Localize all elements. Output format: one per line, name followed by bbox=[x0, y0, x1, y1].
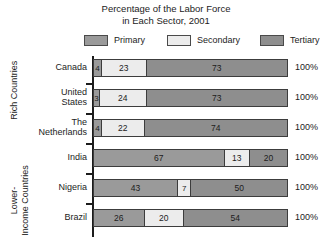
bar-segment-value: 4 bbox=[95, 124, 99, 133]
chart-row: India671320100% bbox=[0, 148, 332, 168]
chart-legend: Primary Secondary Tertiary bbox=[84, 34, 328, 47]
chart-row: TheNetherlands42274100% bbox=[0, 118, 332, 138]
stacked-bar: 671320 bbox=[93, 149, 288, 167]
bar-segment-value: 13 bbox=[232, 154, 241, 163]
bar-segment-value: 74 bbox=[211, 124, 220, 133]
group-label-rich-countries: Rich Countries bbox=[9, 52, 20, 128]
legend-item-secondary: Secondary bbox=[167, 35, 240, 46]
bar-segment-value: 4 bbox=[95, 64, 99, 73]
legend-swatch-tertiary bbox=[260, 35, 284, 46]
bar-segment-value: 7 bbox=[182, 184, 186, 193]
legend-label-secondary: Secondary bbox=[197, 35, 240, 46]
bar-segment-value: 24 bbox=[118, 94, 127, 103]
chart-row: Canada42373100% bbox=[0, 58, 332, 78]
row-total: 100% bbox=[295, 182, 318, 192]
row-total: 100% bbox=[295, 122, 318, 132]
legend-swatch-primary bbox=[84, 35, 108, 46]
bar-segment-secondary: 7 bbox=[177, 179, 191, 197]
legend-swatch-secondary bbox=[167, 35, 191, 46]
row-total: 100% bbox=[295, 92, 318, 102]
group-label-rich-line-1: Rich Countries bbox=[9, 52, 20, 128]
bar-segment-value: 20 bbox=[264, 154, 273, 163]
bar-segment-tertiary: 50 bbox=[190, 179, 288, 197]
bar-segment-tertiary: 73 bbox=[146, 89, 288, 107]
bar-segment-primary: 67 bbox=[93, 149, 224, 167]
bar-segment-primary: 4 bbox=[93, 119, 101, 137]
bar-segment-tertiary: 74 bbox=[144, 119, 288, 137]
axis-tick bbox=[86, 203, 92, 205]
bar-segment-tertiary: 54 bbox=[183, 209, 288, 227]
bar-segment-primary: 4 bbox=[93, 59, 101, 77]
legend-label-primary: Primary bbox=[114, 35, 145, 46]
bar-segment-value: 23 bbox=[119, 64, 128, 73]
stacked-bar: 262054 bbox=[93, 209, 288, 227]
bar-segment-primary: 26 bbox=[93, 209, 144, 227]
chart-row: Brazil262054100% bbox=[0, 208, 332, 228]
bar-segment-value: 26 bbox=[114, 214, 123, 223]
group-label-lower-line-1: Lower- bbox=[9, 160, 20, 242]
bar-segment-secondary: 24 bbox=[99, 89, 146, 107]
group-label-lower-line-2: Income Countries bbox=[19, 160, 30, 242]
bar-segment-primary: 43 bbox=[93, 179, 177, 197]
chart-root: Percentage of the Labor Force in Each Se… bbox=[0, 0, 332, 245]
axis-tick bbox=[86, 143, 92, 145]
axis-tick bbox=[86, 113, 92, 115]
stacked-bar: 42373 bbox=[93, 59, 288, 77]
row-total: 100% bbox=[295, 62, 318, 72]
chart-row: Nigeria43750100% bbox=[0, 178, 332, 198]
group-label-lower-income-countries: Lower- Income Countries bbox=[9, 160, 30, 242]
row-total: 100% bbox=[295, 212, 318, 222]
axis-tick bbox=[86, 83, 92, 85]
bar-segment-value: 43 bbox=[131, 184, 140, 193]
plot-area: Canada42373100%UnitedStates32473100%TheN… bbox=[0, 55, 332, 240]
bar-segment-value: 50 bbox=[235, 184, 244, 193]
legend-label-tertiary: Tertiary bbox=[290, 35, 320, 46]
bar-segment-value: 54 bbox=[231, 214, 240, 223]
bar-segment-secondary: 23 bbox=[101, 59, 146, 77]
bar-segment-secondary: 13 bbox=[224, 149, 249, 167]
chart-title: Percentage of the Labor Force in Each Se… bbox=[0, 3, 332, 27]
stacked-bar: 32473 bbox=[93, 89, 288, 107]
chart-title-line-1: Percentage of the Labor Force bbox=[0, 3, 332, 15]
bar-segment-value: 73 bbox=[212, 64, 221, 73]
bar-segment-tertiary: 73 bbox=[146, 59, 288, 77]
legend-item-tertiary: Tertiary bbox=[260, 35, 320, 46]
stacked-bar: 43750 bbox=[93, 179, 288, 197]
legend-item-primary: Primary bbox=[84, 35, 145, 46]
axis-tick bbox=[86, 173, 92, 175]
stacked-bar: 42274 bbox=[93, 119, 288, 137]
bar-segment-value: 22 bbox=[118, 124, 127, 133]
row-label-line-2: Netherlands bbox=[0, 127, 87, 137]
chart-row: UnitedStates32473100% bbox=[0, 88, 332, 108]
bar-segment-secondary: 20 bbox=[144, 209, 183, 227]
bar-segment-value: 20 bbox=[159, 214, 168, 223]
chart-title-line-2: in Each Sector, 2001 bbox=[0, 15, 332, 27]
bar-segment-value: 73 bbox=[212, 94, 221, 103]
bar-segment-value: 67 bbox=[154, 154, 163, 163]
bar-segment-tertiary: 20 bbox=[249, 149, 288, 167]
row-total: 100% bbox=[295, 152, 318, 162]
bar-segment-secondary: 22 bbox=[101, 119, 144, 137]
